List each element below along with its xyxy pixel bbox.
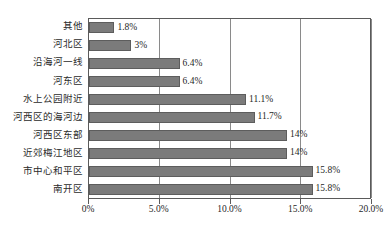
bar [89, 22, 114, 33]
bar-row: 1.8% [89, 19, 370, 37]
category-axis: 其他河北区沿海河一线河东区水上公园附近河西区的海河边河西区东部近郊梅江地区市中心… [0, 18, 86, 199]
bar-row: 6.4% [89, 55, 370, 73]
category-row: 河西区东部 [0, 127, 86, 145]
x-tick-label: 0% [82, 205, 95, 215]
bar-value-label: 6.4% [183, 77, 203, 87]
bar [89, 40, 131, 51]
category-label: 河西区的海河边 [13, 113, 83, 123]
bar [89, 76, 180, 87]
bar-value-label: 14% [290, 131, 307, 141]
x-axis-labels: 0%5.0%10.0%15.0%20.0% [0, 205, 388, 221]
bar-row: 15.8% [89, 162, 370, 180]
bar-row: 11.1% [89, 91, 370, 109]
category-row: 河东区 [0, 72, 86, 90]
bar-row: 3% [89, 37, 370, 55]
category-row: 水上公园附近 [0, 90, 86, 108]
category-label: 河东区 [53, 77, 83, 87]
bar-value-label: 11.7% [258, 113, 282, 123]
bar-chart: 其他河北区沿海河一线河东区水上公园附近河西区的海河边河西区东部近郊梅江地区市中心… [0, 0, 388, 234]
bar [89, 130, 287, 141]
bar-row: 15.8% [89, 180, 370, 198]
bar [89, 184, 313, 195]
x-tick-label: 15.0% [288, 205, 313, 215]
category-row: 河西区的海河边 [0, 108, 86, 126]
bars-layer: 1.8%3%6.4%6.4%11.1%11.7%14%14%15.8%15.8% [89, 19, 370, 198]
bar [89, 94, 246, 105]
bar-value-label: 3% [134, 41, 147, 51]
category-label: 市中心和平区 [23, 167, 83, 177]
category-label: 沿海河一线 [33, 58, 83, 68]
category-label: 其他 [63, 22, 83, 32]
gridline [371, 19, 372, 198]
bar [89, 166, 313, 177]
category-row: 河北区 [0, 36, 86, 54]
category-label: 近郊梅江地区 [23, 149, 83, 159]
bar-row: 11.7% [89, 109, 370, 127]
bar-row: 6.4% [89, 73, 370, 91]
x-tick-label: 10.0% [217, 205, 242, 215]
category-row: 南开区 [0, 181, 86, 199]
bar-value-label: 11.1% [249, 95, 273, 105]
bar-value-label: 15.8% [316, 166, 341, 176]
bar-value-label: 6.4% [183, 59, 203, 69]
bar [89, 112, 255, 123]
x-tick-label: 5.0% [149, 205, 169, 215]
category-row: 市中心和平区 [0, 163, 86, 181]
category-row: 近郊梅江地区 [0, 145, 86, 163]
bar [89, 148, 287, 159]
plot-area: 1.8%3%6.4%6.4%11.1%11.7%14%14%15.8%15.8% [88, 18, 371, 199]
bar-value-label: 15.8% [316, 184, 341, 194]
bar-row: 14% [89, 144, 370, 162]
category-label: 河西区东部 [33, 131, 83, 141]
category-label: 南开区 [53, 185, 83, 195]
bar-value-label: 14% [290, 149, 307, 159]
bar [89, 58, 180, 69]
category-label: 水上公园附近 [23, 95, 83, 105]
category-row: 其他 [0, 18, 86, 36]
x-tick-label: 20.0% [359, 205, 384, 215]
category-row: 沿海河一线 [0, 54, 86, 72]
bar-value-label: 1.8% [117, 23, 137, 33]
bar-row: 14% [89, 126, 370, 144]
category-label: 河北区 [53, 40, 83, 50]
